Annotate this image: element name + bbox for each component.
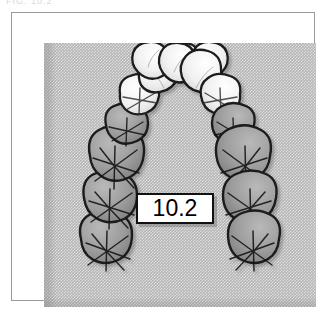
tooth-upper-left-third-molar bbox=[228, 210, 280, 271]
figure-page: FIG. 10.2 bbox=[0, 0, 329, 317]
dental-arch-illustration bbox=[44, 43, 316, 307]
caption-fragment: FIG. 10.2 bbox=[6, 0, 96, 6]
figure-number-text: 10.2 bbox=[153, 197, 198, 220]
arch-photo-field: 10.2 bbox=[44, 43, 316, 307]
figure-number-box: 10.2 bbox=[136, 193, 214, 224]
plate-frame: 10.2 bbox=[11, 12, 315, 301]
